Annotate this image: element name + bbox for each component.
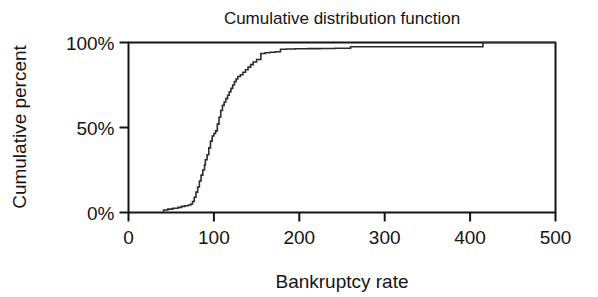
x-tick-label: 500 — [540, 227, 572, 248]
y-tick-label: 100% — [66, 33, 115, 54]
y-tick-label: 0% — [87, 203, 115, 224]
cumulative-distribution-chart: Cumulative distribution function 0%50%10… — [0, 0, 598, 297]
x-tick-label: 300 — [369, 227, 401, 248]
x-tick-label: 0 — [123, 227, 134, 248]
y-tick-label: 50% — [76, 118, 114, 139]
chart-title: Cumulative distribution function — [224, 9, 460, 28]
y-axis-title: Cumulative percent — [9, 44, 30, 208]
x-tick-label: 400 — [454, 227, 486, 248]
x-tick-label: 200 — [283, 227, 315, 248]
x-tick-label: 100 — [198, 227, 230, 248]
x-axis-title: Bankruptcy rate — [275, 271, 408, 292]
chart-figure: Cumulative distribution function 0%50%10… — [0, 0, 598, 297]
